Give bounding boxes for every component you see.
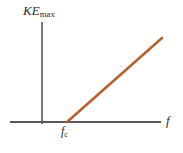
y-axis-label: KEmax [23, 4, 55, 19]
cutoff-frequency-label: fc [61, 125, 68, 139]
chart-canvas [0, 0, 183, 153]
y-axis-label-subscript: max [40, 9, 55, 19]
chart-background [0, 0, 183, 153]
x-axis-label: f [166, 114, 170, 127]
y-axis-label-main: KE [23, 3, 40, 18]
photoelectric-effect-chart: KEmax f fc [0, 0, 183, 153]
cutoff-frequency-label-subscript: c [64, 130, 68, 139]
